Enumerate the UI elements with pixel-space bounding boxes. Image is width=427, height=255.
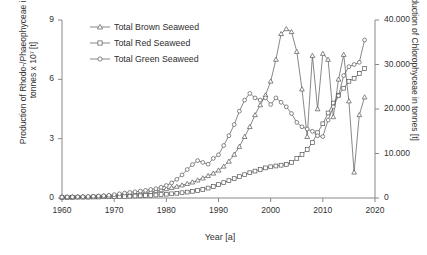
x-tick-label: 2000 xyxy=(253,205,289,215)
legend-label: Total Red Seaweed xyxy=(114,38,190,48)
legend-label: Total Brown Seaweed xyxy=(114,22,199,32)
y-right-tick-label: 20.000 xyxy=(384,103,427,113)
y-left-tick-label: 0 xyxy=(32,192,54,202)
legend-marker-triangle-icon xyxy=(90,21,110,33)
chart-legend: Total Brown Seaweed Total Red Seaweed To… xyxy=(90,19,199,67)
y-right-tick-label: 30.000 xyxy=(384,59,427,69)
x-tick-label: 1970 xyxy=(96,205,132,215)
x-tick-label: 2020 xyxy=(357,205,393,215)
y-right-tick-label: 0 xyxy=(384,192,427,202)
y-left-tick-label: 3 xyxy=(32,133,54,143)
legend-item: Total Green Seaweed xyxy=(90,51,199,67)
plot-area xyxy=(0,0,427,255)
legend-marker-square-icon xyxy=(90,37,110,49)
legend-label: Total Green Seaweed xyxy=(114,54,199,64)
x-tick-label: 1980 xyxy=(148,205,184,215)
x-tick-label: 1960 xyxy=(44,205,80,215)
chart-figure: Production of Rhodo-/Phaeophyceae in ton… xyxy=(0,0,427,255)
legend-item: Total Brown Seaweed xyxy=(90,19,199,35)
legend-marker-circle-icon xyxy=(90,53,110,65)
x-axis-label: Year [a] xyxy=(150,232,290,243)
y-right-tick-label: 10.000 xyxy=(384,148,427,158)
x-tick-label: 1990 xyxy=(201,205,237,215)
legend-item: Total Red Seaweed xyxy=(90,35,199,51)
y-right-tick-label: 40.000 xyxy=(384,14,427,24)
x-tick-label: 2010 xyxy=(305,205,341,215)
y-left-tick-label: 6 xyxy=(32,73,54,83)
y-left-tick-label: 9 xyxy=(32,14,54,24)
